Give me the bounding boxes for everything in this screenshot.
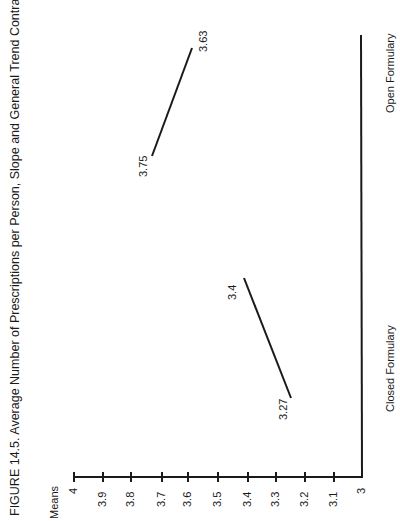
tick-label: 3.6 <box>181 491 193 506</box>
tick-label: 3.4 <box>241 491 253 506</box>
category-label-closed: Closed Formulary <box>384 325 396 412</box>
closed-start-value-label: 3.27 <box>277 399 289 420</box>
tick-label: 4 <box>67 488 79 494</box>
tick-label: 3.8 <box>124 491 136 506</box>
tick-label: 3.2 <box>298 491 310 506</box>
chart-plot-area <box>0 0 400 521</box>
closed-formulary-line <box>244 278 291 398</box>
tick-label: 3.1 <box>327 491 339 506</box>
open-formulary-line <box>152 48 192 156</box>
tick-label: 3.5 <box>211 491 223 506</box>
tick-label: 3.7 <box>155 491 167 506</box>
closed-end-value-label: 3.4 <box>226 285 238 300</box>
category-label-open: Open Formulary <box>384 34 396 113</box>
open-end-value-label: 3.63 <box>197 31 209 52</box>
tick-label: 3.3 <box>269 491 281 506</box>
category-axis-line <box>361 35 362 478</box>
tick-label: 3 <box>355 488 367 494</box>
tick-label: 3.9 <box>96 491 108 506</box>
open-start-value-label: 3.75 <box>137 156 149 177</box>
